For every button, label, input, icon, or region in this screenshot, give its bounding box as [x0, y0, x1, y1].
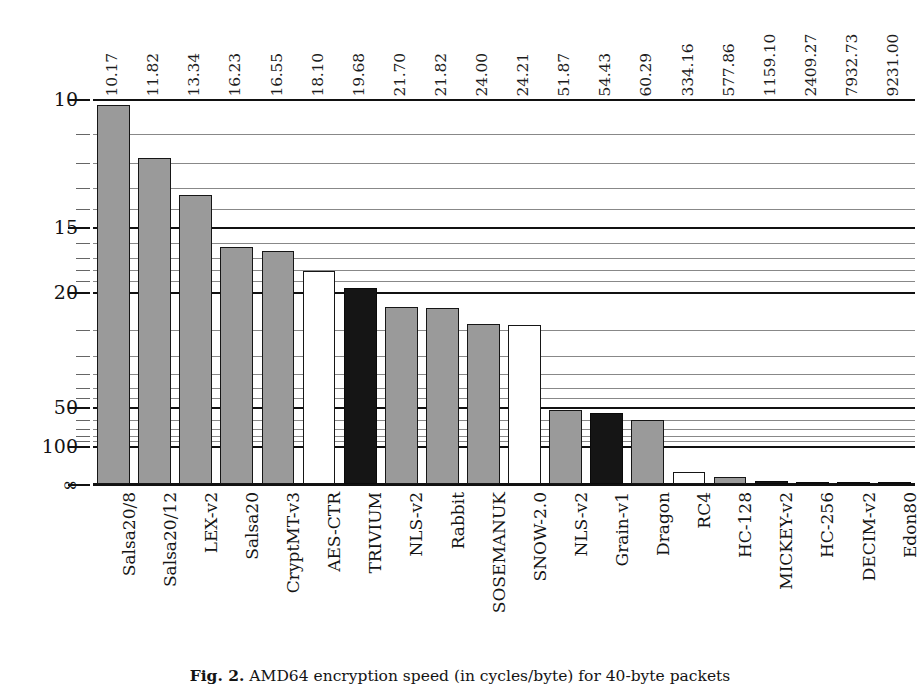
x-axis-category-label: Rabbit: [450, 492, 467, 549]
bar-value-label: 1159.10: [762, 33, 778, 96]
y-tick-minor: [76, 330, 90, 331]
gridline-minor: [93, 436, 915, 437]
y-tick-major: [68, 446, 90, 448]
gridline-minor: [93, 429, 915, 430]
bar: [755, 481, 788, 484]
x-axis-category-label: NLS-v2: [573, 492, 590, 557]
bar-value-label: 16.55: [269, 53, 285, 96]
y-tick-major: [68, 99, 90, 101]
bar-value-label: 21.82: [433, 53, 449, 96]
gridline-minor: [93, 134, 915, 135]
bar: [220, 247, 253, 484]
y-tick-major: [68, 407, 90, 409]
gridline-minor: [93, 243, 915, 244]
x-axis-category-label: SNOW-2.0: [532, 492, 549, 581]
gridline-major: [93, 227, 915, 229]
bar-value-labels: 10.1711.8213.3416.2316.5518.1019.6821.70…: [0, 0, 920, 98]
x-axis-category-label: SOSEMANUK: [491, 492, 508, 613]
bar-value-label: 7932.73: [844, 33, 860, 96]
bar: [344, 288, 377, 484]
y-tick-minor: [76, 356, 90, 357]
bar: [138, 158, 171, 484]
bar: [97, 105, 130, 484]
gridline-major: [93, 446, 915, 448]
bar-value-label: 21.70: [392, 53, 408, 96]
y-tick-minor: [76, 134, 90, 135]
y-tick-minor: [76, 281, 90, 282]
y-tick-minor: [76, 441, 90, 442]
plot-area: [93, 99, 915, 484]
y-tick-minor: [76, 398, 90, 399]
y-tick-minor: [76, 188, 90, 189]
x-axis-category-label: LEX-v2: [203, 492, 220, 553]
bar-value-label: 24.21: [516, 53, 532, 96]
y-tick-minor: [76, 270, 90, 271]
bar: [262, 251, 295, 484]
bar-value-label: 54.43: [598, 53, 614, 96]
bar-value-label: 13.34: [187, 53, 203, 96]
gridline-major: [93, 292, 915, 294]
y-tick-major: [68, 227, 90, 229]
x-axis-category-label: MICKEY-v2: [778, 492, 795, 590]
x-axis-category-label: AES-CTR: [326, 492, 343, 572]
figure-caption: Fig. 2. AMD64 encryption speed (in cycle…: [0, 666, 920, 685]
bar: [385, 307, 418, 484]
gridline-minor: [93, 281, 915, 282]
y-tick-minor: [76, 429, 90, 430]
y-tick-minor: [76, 436, 90, 437]
bar: [549, 410, 582, 484]
x-axis-category-label: NLS-v2: [408, 492, 425, 557]
y-tick-minor: [76, 209, 90, 210]
x-axis-category-label: Salsa20/8: [121, 492, 138, 576]
bar: [508, 325, 541, 484]
bar-value-label: 24.00: [475, 53, 491, 96]
bar: [426, 308, 459, 484]
bar: [467, 324, 500, 484]
gridline-minor: [93, 356, 915, 357]
bar-value-label: 19.68: [351, 53, 367, 96]
x-axis-category-labels: Salsa20/8Salsa20/12LEX-v2Salsa20CryptMT-…: [0, 488, 920, 653]
x-axis-category-label: TRIVIUM: [367, 492, 384, 574]
gridline-minor: [93, 441, 915, 442]
gridline-major: [93, 99, 915, 101]
gridline-major: [93, 407, 915, 409]
x-axis-category-label: Salsa20/12: [162, 492, 179, 587]
caption-label: Fig. 2.: [190, 666, 245, 685]
figure-bar-chart: 10.1711.8213.3416.2316.5518.1019.6821.70…: [0, 0, 920, 685]
bar: [796, 482, 829, 484]
bar: [673, 472, 706, 484]
bar-value-label: 2409.27: [803, 33, 819, 96]
y-tick-minor: [76, 258, 90, 259]
y-tick-major: [68, 292, 90, 294]
bar: [837, 482, 870, 484]
x-axis-category-label: RC4: [696, 492, 713, 529]
bar-value-label: 16.23: [228, 53, 244, 96]
gridline-minor: [93, 388, 915, 389]
bar-value-label: 18.10: [310, 53, 326, 96]
gridline-minor: [93, 209, 915, 210]
bar: [303, 271, 336, 484]
bar-value-label: 10.17: [105, 53, 121, 96]
bar: [714, 477, 747, 484]
bar-value-label: 60.29: [639, 53, 655, 96]
gridline-minor: [93, 270, 915, 271]
x-axis-category-label: Dragon: [655, 492, 672, 556]
y-tick-minor: [76, 163, 90, 164]
bar-value-label: 51.87: [557, 53, 573, 96]
gridline-minor: [93, 188, 915, 189]
bar-value-label: 577.86: [721, 43, 737, 96]
gridline-minor: [93, 258, 915, 259]
caption-text: AMD64 encryption speed (in cycles/byte) …: [249, 667, 730, 685]
bar: [878, 482, 911, 484]
gridline-minor: [93, 420, 915, 421]
bar: [179, 195, 212, 484]
bar: [590, 413, 623, 484]
bar-value-label: 334.16: [680, 43, 696, 96]
x-axis-category-label: HC-256: [819, 492, 836, 558]
y-tick-minor: [76, 420, 90, 421]
x-axis-category-label: CryptMT-v3: [285, 492, 302, 593]
x-axis-category-label: DECIM-v2: [861, 492, 878, 581]
gridline-minor: [93, 163, 915, 164]
bar-value-label: 11.82: [146, 53, 162, 96]
x-axis-category-label: Salsa20: [244, 492, 261, 560]
